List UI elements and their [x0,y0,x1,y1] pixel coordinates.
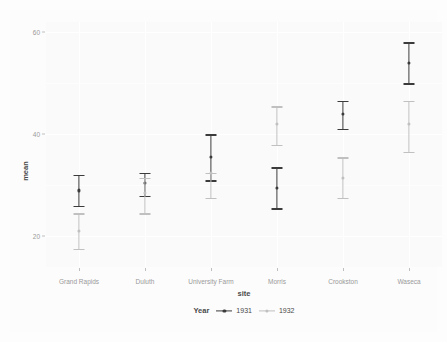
legend-key-icon-1931 [216,306,232,315]
plot-panel [46,22,442,267]
error-bar-cap-upper [338,101,349,102]
error-bar-cap-upper [338,157,349,158]
gridline-horizontal-minor [46,185,442,186]
x-tick-mark [343,268,344,271]
x-tick-label: Crookston [328,278,358,285]
error-bar-cap-upper [74,213,85,214]
error-bar-cap-lower [404,152,415,153]
pointrange-1931-waseca [402,42,416,83]
pointrange-1932-grand-rapids [72,213,86,249]
chart-figure: mean site Year 1931 1932 204060Grand Rap… [0,0,447,342]
x-tick-mark [79,268,80,271]
error-bar-cap-lower [404,83,415,84]
y-axis-title: mean [21,161,30,181]
error-bar-cap-upper [404,42,415,43]
gridline-horizontal [46,134,442,135]
error-bar-cap-upper [404,101,415,102]
data-point [341,176,344,179]
y-tick-mark [42,32,45,33]
data-point [209,156,212,159]
x-tick-label: Grand Rapids [59,278,99,285]
x-tick-label: Morris [268,278,286,285]
data-point [77,230,80,233]
error-bar-cap-lower [74,249,85,250]
gridline-vertical [145,22,146,267]
error-bar-cap-lower [272,145,283,146]
data-point [275,186,278,189]
error-bar-cap-upper [272,167,283,168]
gridline-horizontal [46,32,442,33]
error-bar-cap-lower [140,213,151,214]
x-tick-mark [211,268,212,271]
pointrange-1932-crookston [336,157,350,198]
plot-card: mean site Year 1931 1932 204060Grand Rap… [10,10,437,332]
y-tick-mark [42,236,45,237]
y-tick-label: 60 [33,29,40,36]
data-point [143,191,146,194]
error-bar-cap-lower [338,198,349,199]
legend-label-1931: 1931 [236,307,252,314]
error-bar-line [144,178,145,214]
gridline-horizontal-minor [46,83,442,84]
error-bar-cap-upper [272,106,283,107]
error-bar-cap-upper [74,175,85,176]
data-point [341,112,344,115]
y-tick-mark [42,134,45,135]
y-tick-label: 40 [33,131,40,138]
pointrange-1931-morris [270,167,284,208]
legend-item-1932[interactable]: 1932 [259,306,295,315]
error-bar-cap-upper [206,134,217,135]
legend-title: Year [193,306,209,315]
data-point [407,122,410,125]
error-bar-line [210,173,211,199]
x-tick-mark [145,268,146,271]
legend-key-icon-1932 [259,306,275,315]
error-bar-cap-lower [338,129,349,130]
x-tick-label: University Farm [188,278,234,285]
y-tick-label: 20 [33,233,40,240]
pointrange-1932-university-farm [204,173,218,199]
error-bar-cap-upper [140,178,151,179]
chart-legend: Year 1931 1932 [46,306,442,315]
x-tick-label: Duluth [136,278,155,285]
gridline-vertical [343,22,344,267]
x-tick-mark [277,268,278,271]
data-point [407,61,410,64]
pointrange-1932-duluth [138,178,152,214]
error-bar-cap-upper [140,173,151,174]
error-bar-line [408,101,409,152]
x-axis-title: site [46,289,442,298]
x-tick-label: Waseca [397,278,420,285]
pointrange-1932-waseca [402,101,416,152]
error-bar-cap-lower [74,206,85,207]
legend-item-1931[interactable]: 1931 [216,306,252,315]
error-bar-cap-lower [206,198,217,199]
gridline-horizontal [46,236,442,237]
error-bar-cap-lower [272,208,283,209]
legend-label-1932: 1932 [279,307,295,314]
x-tick-mark [409,268,410,271]
pointrange-1932-morris [270,106,284,144]
data-point [275,122,278,125]
data-point [77,189,80,192]
pointrange-1931-crookston [336,101,350,129]
pointrange-1931-grand-rapids [72,175,86,206]
